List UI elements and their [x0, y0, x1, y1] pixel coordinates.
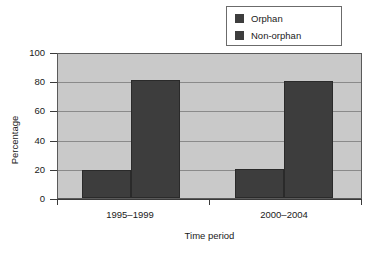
bar-non-orphan-2000-2004 [284, 81, 333, 198]
y-tick-label: 80 [34, 77, 45, 87]
legend-swatch-icon [235, 14, 244, 23]
y-tick-label: 40 [34, 136, 45, 146]
y-tick-label: 20 [34, 165, 45, 175]
legend-item-label: Non-orphan [251, 31, 301, 41]
y-tick-mark [50, 111, 57, 112]
x-tick-mark [209, 199, 210, 205]
legend-item-label: Orphan [251, 14, 283, 24]
y-tick-label: 0 [40, 194, 45, 204]
bar-orphan-1995-1999 [82, 170, 131, 198]
chart-legend: Orphan Non-orphan [226, 6, 342, 46]
y-tick-mark [50, 170, 57, 171]
y-tick-mark [50, 53, 57, 54]
bar-orphan-2000-2004 [235, 169, 284, 198]
x-tick-mark [361, 199, 362, 205]
bar-non-orphan-1995-1999 [131, 80, 180, 198]
x-axis-title: Time period [57, 230, 362, 241]
legend-item-orphan: Orphan [235, 11, 341, 26]
y-tick-mark [50, 141, 57, 142]
legend-item-non-orphan: Non-orphan [235, 28, 341, 43]
y-axis-title: Percentage [8, 67, 22, 213]
x-tick-label: 2000–2004 [260, 209, 308, 220]
y-tick-label: 60 [34, 106, 45, 116]
y-tick-mark [50, 199, 57, 200]
x-tick-label: 1995–1999 [106, 209, 154, 220]
plot-area [57, 53, 362, 199]
y-tick-mark [50, 82, 57, 83]
legend-swatch-icon [235, 31, 244, 40]
y-tick-label: 100 [29, 48, 45, 58]
x-tick-mark [57, 199, 58, 205]
